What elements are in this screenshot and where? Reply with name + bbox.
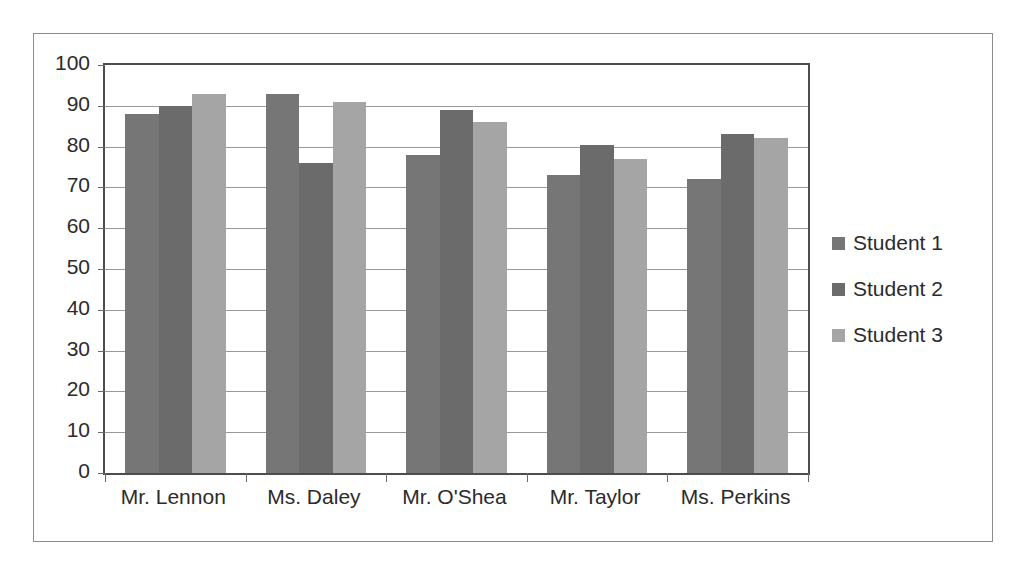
y-axis-tick-label: 50 <box>67 255 90 279</box>
y-axis-tick-mark <box>98 106 105 107</box>
bar-group <box>125 65 226 473</box>
y-axis-tick-mark <box>98 269 105 270</box>
y-axis-tick-mark <box>98 351 105 352</box>
legend-item-label: Student 3 <box>853 323 943 347</box>
legend-item-label: Student 2 <box>853 277 943 301</box>
legend-swatch-icon <box>832 283 845 296</box>
bar-group <box>266 65 367 473</box>
x-axis-tick-labels: Mr. LennonMs. DaleyMr. O'SheaMr. TaylorM… <box>103 481 810 521</box>
y-axis-tick-mark <box>98 228 105 229</box>
y-axis-tick-label: 10 <box>67 418 90 442</box>
y-axis-tick-label: 0 <box>78 459 90 483</box>
y-axis-tick-mark <box>98 65 105 66</box>
bar[interactable] <box>125 114 159 473</box>
x-axis-tick-label: Ms. Daley <box>267 485 360 509</box>
chart-legend: Student 1Student 2Student 3 <box>832 220 992 358</box>
x-axis-tick-label: Mr. Taylor <box>550 485 641 509</box>
x-axis-tick-label: Mr. Lennon <box>121 485 226 509</box>
plot-area <box>103 63 810 475</box>
y-axis-tick-label: 40 <box>67 296 90 320</box>
y-axis-tick-label: 30 <box>67 337 90 361</box>
bar-group <box>547 65 648 473</box>
y-axis-tick-mark <box>98 310 105 311</box>
y-axis-tick-mark <box>98 473 105 474</box>
x-axis-tick-label: Ms. Perkins <box>681 485 791 509</box>
y-axis-tick-mark <box>98 187 105 188</box>
bar[interactable] <box>406 155 440 473</box>
x-axis-tick-label: Mr. O'Shea <box>402 485 506 509</box>
bar[interactable] <box>266 94 300 473</box>
bar-group <box>687 65 788 473</box>
bar[interactable] <box>754 138 788 473</box>
y-axis-tick-mark <box>98 147 105 148</box>
bar[interactable] <box>687 179 721 473</box>
legend-item[interactable]: Student 2 <box>832 266 992 312</box>
bar[interactable] <box>440 110 474 473</box>
y-axis-tick-label: 70 <box>67 173 90 197</box>
bar[interactable] <box>299 163 333 473</box>
y-axis-tick-mark <box>98 391 105 392</box>
bar[interactable] <box>473 122 507 473</box>
bar[interactable] <box>614 159 648 473</box>
y-axis-tick-labels: 1009080706050403020100 <box>34 34 100 543</box>
legend-item[interactable]: Student 3 <box>832 312 992 358</box>
y-axis-tick-label: 90 <box>67 92 90 116</box>
bars-layer <box>105 65 808 473</box>
chart-frame: 1009080706050403020100 Mr. LennonMs. Dal… <box>33 33 993 542</box>
y-axis-tick-mark <box>98 432 105 433</box>
y-axis-tick-label: 80 <box>67 133 90 157</box>
legend-item[interactable]: Student 1 <box>832 220 992 266</box>
chart-plot-wrapper: 1009080706050403020100 Mr. LennonMs. Dal… <box>34 34 994 543</box>
bar[interactable] <box>721 134 755 473</box>
y-axis-tick-label: 60 <box>67 214 90 238</box>
y-axis-tick-label: 100 <box>55 51 90 75</box>
y-axis-tick-label: 20 <box>67 377 90 401</box>
legend-swatch-icon <box>832 329 845 342</box>
bar[interactable] <box>547 175 581 473</box>
bar[interactable] <box>192 94 226 473</box>
legend-swatch-icon <box>832 237 845 250</box>
bar[interactable] <box>159 106 193 473</box>
bar[interactable] <box>333 102 367 473</box>
bar-group <box>406 65 507 473</box>
bar[interactable] <box>580 145 614 473</box>
legend-item-label: Student 1 <box>853 231 943 255</box>
